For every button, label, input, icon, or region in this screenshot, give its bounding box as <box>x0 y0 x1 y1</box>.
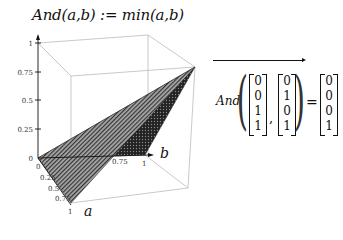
svg-text:0.75: 0.75 <box>17 69 33 77</box>
arg1-vector: 0011 <box>249 74 267 136</box>
vectorize-overbar <box>213 60 303 61</box>
result-vector: 0001 <box>320 74 338 136</box>
svg-text:0: 0 <box>36 163 40 171</box>
svg-text:0.75: 0.75 <box>112 158 128 166</box>
svg-text:0.5: 0.5 <box>48 185 59 193</box>
svg-text:0.5: 0.5 <box>22 97 33 105</box>
svg-text:0.25: 0.25 <box>17 126 33 134</box>
svg-text:1: 1 <box>68 208 72 216</box>
svg-text:0: 0 <box>29 155 33 163</box>
svg-text:1: 1 <box>142 160 146 168</box>
b-axis-arrow-icon <box>148 153 154 157</box>
z-axis-arrow-icon <box>36 34 40 40</box>
svg-text:0.25: 0.25 <box>40 174 56 182</box>
svg-text:0.75: 0.75 <box>55 195 71 203</box>
right-paren: ) <box>294 68 305 132</box>
left-paren: ( <box>237 68 248 132</box>
svg-text:a: a <box>84 203 92 219</box>
vectorized-evaluation: And ( 0011 , 0101 ) = 0001 <box>212 60 343 140</box>
svg-text:b: b <box>160 145 169 161</box>
svg-text:1: 1 <box>29 40 33 48</box>
surface-lower <box>38 67 195 203</box>
